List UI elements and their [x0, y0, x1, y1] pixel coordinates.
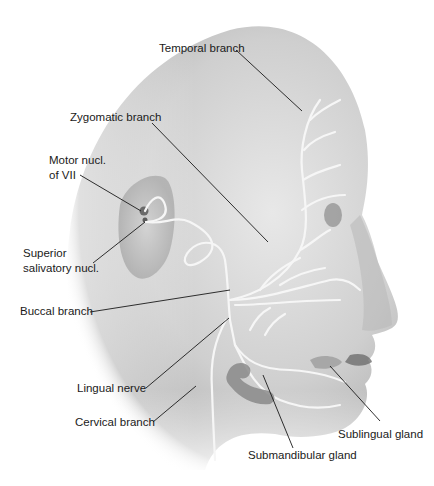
facial-nerve-diagram: Temporal branch Zygomatic branch Motor n… [0, 0, 434, 486]
label-sublingual-gland: Sublingual gland [338, 428, 423, 441]
label-motor-nucleus-line1: Motor nucl. [49, 154, 106, 167]
label-buccal-branch: Buccal branch [20, 305, 93, 318]
eye [324, 203, 342, 227]
label-superior-salivatory-line1: Superior [23, 247, 66, 260]
label-motor-nucleus-line2: of VII [49, 169, 76, 182]
label-lingual-nerve: Lingual nerve [77, 382, 146, 395]
label-submandibular-gland: Submandibular gland [248, 449, 357, 462]
label-zygomatic-branch: Zygomatic branch [70, 111, 161, 124]
label-temporal-branch: Temporal branch [159, 42, 245, 55]
label-superior-salivatory-line2: salivatory nucl. [23, 262, 99, 275]
head-illustration [0, 0, 434, 486]
label-cervical-branch: Cervical branch [75, 416, 155, 429]
